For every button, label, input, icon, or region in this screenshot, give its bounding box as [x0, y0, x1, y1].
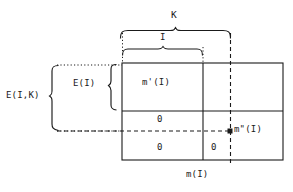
diagram-canvas	[0, 0, 293, 192]
brace-e-i-k	[50, 66, 59, 131]
label-m-prime-i: m'(I)	[142, 78, 170, 87]
math-diagram-figure: K I E(I,K) E(I) m'(I) 0 0 0 m"(I) m(I)	[0, 0, 293, 192]
brace-k	[121, 28, 231, 39]
label-zero-lower-left: 0	[157, 143, 163, 152]
label-m-i: m(I)	[186, 170, 208, 179]
label-zero-upper-left: 0	[157, 115, 163, 124]
brace-i	[123, 47, 203, 56]
label-zero-lower-right: 0	[211, 143, 217, 152]
label-e-i: E(I)	[73, 79, 95, 88]
label-m-double-prime-i: m"(I)	[234, 125, 262, 134]
label-e-i-k: E(I,K)	[6, 91, 40, 100]
label-i: I	[160, 33, 166, 42]
brace-e-i	[109, 65, 117, 111]
marker-point	[228, 129, 233, 134]
label-k: K	[171, 10, 177, 20]
